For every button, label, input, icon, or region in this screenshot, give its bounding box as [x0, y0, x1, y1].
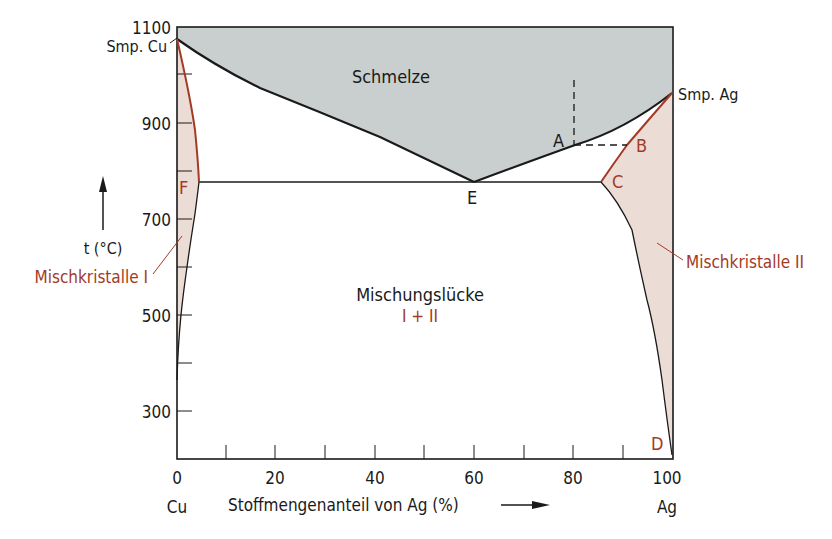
region-label-i-plus-ii: I + II	[402, 306, 438, 326]
point-label-d: D	[651, 433, 663, 454]
y-tick-label: 300	[142, 402, 171, 422]
region-label-mischkristalle-1: Mischkristalle I	[34, 267, 148, 287]
x-tick-label: 80	[563, 468, 582, 488]
y-tick-label: 500	[142, 306, 171, 326]
x-axis-arrow-icon	[532, 501, 550, 509]
point-label-a: A	[553, 130, 564, 151]
region-label-schmelze: Schmelze	[352, 66, 430, 87]
point-label-b: B	[636, 135, 647, 156]
leader-smp-cu	[170, 38, 177, 43]
x-axis-title: Stoffmengenanteil von Ag (%)	[228, 495, 459, 515]
y-tick-label: 700	[142, 210, 171, 230]
x-tick-label: 20	[265, 468, 284, 488]
point-label-f: F	[179, 177, 188, 198]
x-end-label-ag: Ag	[657, 497, 677, 517]
y-axis-title: t (°C)	[84, 239, 123, 258]
y-axis-arrow-icon	[99, 176, 107, 192]
x-end-label-cu: Cu	[167, 497, 187, 517]
point-label-e: E	[467, 187, 477, 208]
point-label-c: C	[612, 171, 623, 192]
chart-svg: 1100 900 700 500 300 0 20 40 60 80 100 C…	[0, 0, 832, 539]
y-tick-label: 900	[142, 114, 171, 134]
x-ticks	[226, 445, 623, 459]
label-smp-ag: Smp. Ag	[678, 85, 738, 104]
x-tick-label: 0	[172, 468, 182, 488]
x-tick-label: 40	[365, 468, 384, 488]
x-tick-label: 60	[464, 468, 483, 488]
region-label-mischungsluecke: Mischungslücke	[356, 284, 484, 305]
region-label-mischkristalle-2: Mischkristalle II	[686, 252, 804, 272]
label-smp-cu: Smp. Cu	[106, 37, 167, 56]
x-tick-label: 100	[652, 468, 681, 488]
phase-diagram: 1100 900 700 500 300 0 20 40 60 80 100 C…	[0, 0, 832, 539]
y-tick-label: 1100	[132, 18, 171, 38]
